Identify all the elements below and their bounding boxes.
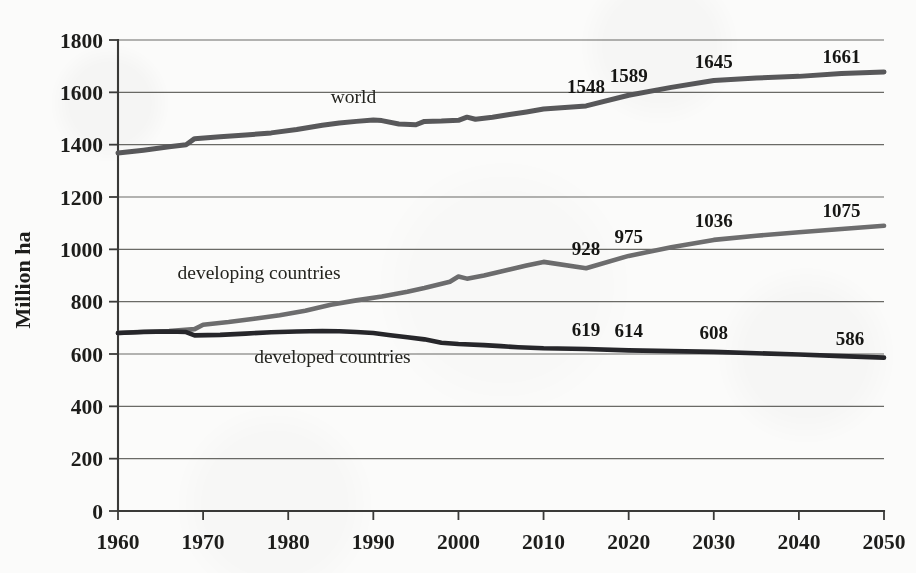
x-tick-label: 2030: [692, 530, 735, 554]
series-lines-group: [118, 72, 884, 358]
x-tick-label: 1980: [267, 530, 310, 554]
y-tick-label: 800: [71, 290, 103, 314]
point-value-label: 614: [614, 320, 643, 341]
x-tick-labels-group: 1960197019801990200020102020203020402050: [97, 530, 906, 554]
point-value-label: 1645: [695, 51, 733, 72]
x-tick-label: 2050: [863, 530, 906, 554]
point-value-label: 928: [572, 238, 601, 259]
series-label-developing-countries: developing countries: [178, 262, 341, 283]
forest-area-line-chart: 020040060080010001200140016001800 196019…: [0, 0, 916, 573]
point-value-label: 1548: [567, 76, 605, 97]
point-value-label: 1661: [822, 46, 860, 67]
series-line-world: [118, 72, 884, 153]
y-tick-labels-group: 020040060080010001200140016001800: [60, 29, 103, 524]
chart-page: 020040060080010001200140016001800 196019…: [0, 0, 916, 573]
point-value-label: 1036: [695, 210, 733, 231]
y-axis-title: Million ha: [10, 231, 35, 328]
y-tick-label: 1800: [60, 29, 103, 53]
y-tick-label: 1400: [60, 133, 103, 157]
y-tick-label: 200: [71, 447, 103, 471]
point-value-label: 619: [572, 319, 601, 340]
y-tick-label: 1600: [60, 81, 103, 105]
x-tick-label: 2040: [777, 530, 820, 554]
x-tick-label: 1990: [352, 530, 395, 554]
y-tick-label: 1000: [60, 238, 103, 262]
y-tick-label: 400: [71, 395, 103, 419]
y-tick-label: 0: [92, 500, 103, 524]
point-value-label: 586: [836, 328, 865, 349]
x-tick-label: 2010: [522, 530, 565, 554]
series-label-developed-countries: developed countries: [254, 346, 411, 367]
x-tick-label: 1970: [182, 530, 225, 554]
y-tick-label: 600: [71, 343, 103, 367]
point-value-label: 1589: [610, 65, 648, 86]
point-value-label: 1075: [822, 200, 860, 221]
y-tick-label: 1200: [60, 186, 103, 210]
x-tick-label: 2020: [607, 530, 650, 554]
x-tick-label: 1960: [97, 530, 140, 554]
series-label-world: world: [331, 86, 377, 107]
point-value-label: 975: [614, 226, 643, 247]
x-tick-label: 2000: [437, 530, 480, 554]
point-value-label: 608: [700, 322, 729, 343]
